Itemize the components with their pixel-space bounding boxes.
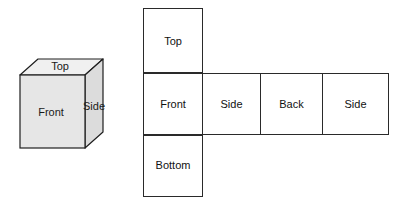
net-cell-top-label: Top: [164, 36, 182, 47]
net-cell-front: Front: [143, 73, 203, 135]
net-cell-bottom: Bottom: [143, 135, 203, 197]
net-cell-top: Top: [143, 8, 203, 73]
cube-side-label: Side: [83, 100, 105, 112]
net-cell-side-left: Side: [202, 73, 261, 135]
net-cell-side-left-label: Side: [220, 99, 242, 110]
net-cell-back-label: Back: [279, 99, 303, 110]
diagram-canvas: Top Front Side Top Front Bottom Side Bac…: [0, 0, 395, 216]
net-cell-bottom-label: Bottom: [156, 160, 191, 171]
net-cell-front-label: Front: [160, 99, 186, 110]
net-cell-back: Back: [260, 73, 323, 135]
net-cell-side-right: Side: [322, 73, 389, 135]
cube-figure: Top Front Side: [0, 46, 130, 166]
net-cell-side-right-label: Side: [344, 99, 366, 110]
cube-front-label: Front: [38, 106, 64, 118]
cube-top-label: Top: [51, 60, 69, 72]
cube-net-figure: Top Front Bottom Side Back Side: [143, 8, 389, 198]
cube-svg: Top Front Side: [0, 46, 130, 166]
